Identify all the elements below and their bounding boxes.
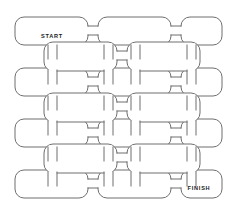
vlink-c1-r5-cover [105, 171, 113, 188]
vlink-c0-r2-cover [49, 95, 57, 112]
hlink-r0-b-cover [170, 27, 183, 35]
cell-r0-c2 [181, 17, 222, 45]
hlink-i2-a-cover [116, 154, 129, 162]
vlink-c1-r0-cover [105, 44, 113, 61]
cell-r0-c1 [98, 17, 171, 45]
vlink-c0-r3-cover [49, 120, 57, 137]
vlink-c2-r5-cover [132, 171, 140, 188]
hlink-r3-b-cover [170, 180, 183, 188]
vlink-c2-r3-cover [132, 120, 140, 137]
hlink-i0-a-cover [116, 52, 129, 60]
vlink-c0-r1-cover [49, 69, 57, 86]
vlink-c3-r2-cover [188, 95, 196, 112]
start-label: START [41, 33, 63, 39]
hlink-i1-a-cover [116, 103, 129, 111]
maze-canvas: STARTFINISH [0, 0, 236, 215]
cell-r0-c0 [15, 17, 88, 45]
hlink-r2-b-cover [170, 129, 183, 137]
vlink-c2-r1-cover [132, 69, 140, 86]
maze-puzzle: STARTFINISH [0, 0, 236, 215]
vlink-c3-r3-cover [188, 120, 196, 137]
vlink-c3-r1-cover [188, 69, 196, 86]
vlink-c1-r2-cover [105, 95, 113, 112]
vlink-c1-r1-cover [105, 69, 113, 86]
hlink-r1-b-cover [170, 78, 183, 86]
vlink-c1-r3-cover [105, 120, 113, 137]
vlink-c3-r4-cover [188, 146, 196, 163]
vlink-c2-r0-cover [132, 44, 140, 61]
finish-label: FINISH [188, 185, 211, 191]
vlink-c3-r0-cover [188, 44, 196, 61]
vlink-c2-r4-cover [132, 146, 140, 163]
vlink-c2-r2-cover [132, 95, 140, 112]
hlink-r0-a-cover [87, 27, 100, 35]
hlink-r1-a-cover [87, 78, 100, 86]
hlink-r3-a-cover [87, 180, 100, 188]
vlink-c0-r4-cover [49, 146, 57, 163]
vlink-c1-r4-cover [105, 146, 113, 163]
hlink-r2-a-cover [87, 129, 100, 137]
vlink-c0-r0-cover [49, 44, 57, 61]
vlink-c0-r5-cover [49, 171, 57, 188]
